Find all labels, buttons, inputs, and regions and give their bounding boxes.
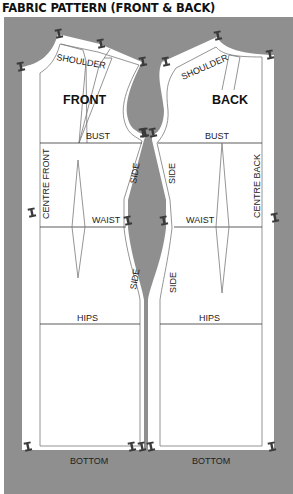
back-piece-title: BACK	[212, 93, 248, 107]
pattern-diagram: SHOULDER FRONT BUST CENTRE FRONT SIDE WA…	[0, 0, 293, 494]
front-piece-title: FRONT	[63, 93, 106, 107]
back-hips-label: HIPS	[199, 313, 220, 323]
front-bottom-label: BOTTOM	[70, 456, 108, 466]
back-centre-label: CENTRE BACK	[252, 154, 262, 218]
back-side-lower-label: SIDE	[168, 272, 178, 293]
back-waist-label: WAIST	[186, 215, 215, 225]
front-bust-label: BUST	[86, 131, 111, 141]
front-waist-label: WAIST	[92, 215, 121, 225]
front-centre-label: CENTRE FRONT	[41, 148, 51, 219]
front-hips-label: HIPS	[77, 313, 98, 323]
back-side-upper-label: SIDE	[167, 163, 177, 184]
back-bottom-label: BOTTOM	[192, 456, 230, 466]
back-bust-label: BUST	[205, 131, 230, 141]
